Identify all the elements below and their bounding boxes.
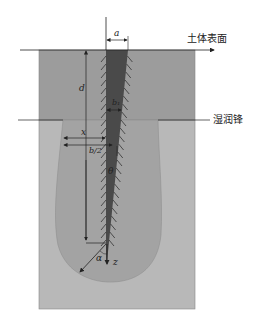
- label-b1: b₁: [112, 99, 120, 107]
- label-a: a: [114, 29, 119, 38]
- label-alpha: α: [96, 254, 102, 263]
- wetting-front-label: 湿润锋: [213, 115, 243, 125]
- label-x: x: [81, 128, 86, 137]
- label-theta: θ: [108, 167, 113, 176]
- diagram-canvas: 土体表面 湿润锋 a b₁ d x b/2 θ α z: [0, 0, 258, 324]
- soil-surface-label: 土体表面: [187, 34, 227, 44]
- label-b-half: b/2: [89, 147, 102, 155]
- label-z: z: [113, 258, 118, 267]
- label-d: d: [79, 84, 85, 93]
- crack-infiltration-diagram: [0, 0, 258, 324]
